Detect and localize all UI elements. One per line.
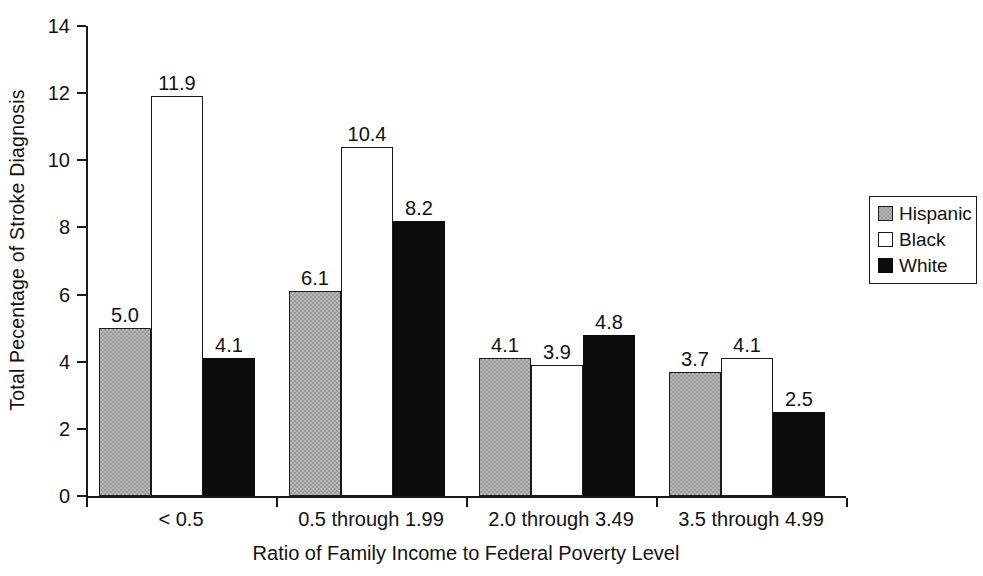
- legend-item-black[interactable]: Black: [878, 230, 968, 249]
- bar-value-label: 8.2: [405, 198, 433, 218]
- bar-white-1: 4.1: [203, 358, 255, 496]
- legend-item-white[interactable]: White: [878, 256, 968, 275]
- x-tick: [276, 498, 278, 507]
- bar-hispanic-2: 6.1: [289, 291, 341, 496]
- legend-item-hispanic[interactable]: Hispanic: [878, 204, 968, 223]
- y-tick: 10: [77, 159, 86, 161]
- bar-value-label: 2.5: [785, 389, 813, 409]
- bar-hispanic-1: 5.0: [99, 328, 151, 496]
- y-tick-label: 0: [59, 486, 70, 506]
- bar-hispanic-3: 4.1: [479, 358, 531, 496]
- y-tick-label: 8: [59, 217, 70, 237]
- bar-hispanic-4: 3.7: [669, 372, 721, 496]
- y-tick: 14: [77, 25, 86, 27]
- bar-value-label: 5.0: [111, 305, 139, 325]
- x-tick: [86, 498, 88, 507]
- bar-white-2: 8.2: [393, 221, 445, 496]
- plot-area: 02468101214 5.011.94.16.110.48.24.13.94.…: [86, 26, 846, 498]
- x-tick: [656, 498, 658, 507]
- legend: HispanicBlackWhite: [869, 196, 977, 284]
- bar-chart: Total Pecentage of Stroke Diagnosis 0246…: [0, 0, 983, 576]
- x-group-label: < 0.5: [86, 509, 276, 529]
- y-tick: 8: [77, 226, 86, 228]
- bar-value-label: 10.4: [348, 124, 387, 144]
- y-tick-label: 4: [59, 352, 70, 372]
- bar-value-label: 4.1: [491, 335, 519, 355]
- y-axis-line: [86, 26, 88, 498]
- bar-value-label: 11.9: [158, 73, 195, 93]
- y-tick: 2: [77, 428, 86, 430]
- legend-label: Hispanic: [899, 204, 972, 223]
- bar-value-label: 6.1: [301, 268, 329, 288]
- gray-hatched-swatch: [878, 206, 893, 221]
- bar-value-label: 4.1: [733, 335, 761, 355]
- bar-value-label: 4.1: [215, 335, 243, 355]
- bar-black-4: 4.1: [721, 358, 773, 496]
- y-axis-title: Total Pecentage of Stroke Diagnosis: [0, 0, 34, 500]
- x-group-label: 3.5 through 4.99: [656, 509, 846, 529]
- x-group-label: 2.0 through 3.49: [466, 509, 656, 529]
- y-tick: 4: [77, 361, 86, 363]
- bar-black-2: 10.4: [341, 147, 393, 496]
- y-tick: 0: [77, 495, 86, 497]
- x-tick: [846, 498, 848, 507]
- bar-black-1: 11.9: [151, 96, 203, 496]
- bar-white-3: 4.8: [583, 335, 635, 496]
- bar-value-label: 3.9: [543, 342, 571, 362]
- y-tick-label: 2: [59, 419, 70, 439]
- black-swatch: [878, 258, 893, 273]
- x-tick: [466, 498, 468, 507]
- y-tick: 6: [77, 294, 86, 296]
- y-tick: 12: [77, 92, 86, 94]
- y-tick-label: 6: [59, 285, 70, 305]
- bar-value-label: 4.8: [595, 312, 623, 332]
- legend-label: Black: [899, 230, 945, 249]
- x-axis-title: Ratio of Family Income to Federal Povert…: [86, 543, 846, 563]
- bar-black-3: 3.9: [531, 365, 583, 496]
- legend-label: White: [899, 256, 948, 275]
- x-group-label: 0.5 through 1.99: [276, 509, 466, 529]
- bar-white-4: 2.5: [773, 412, 825, 496]
- y-tick-label: 14: [48, 16, 70, 36]
- legend-rows: HispanicBlackWhite: [878, 204, 968, 275]
- white-swatch: [878, 232, 893, 247]
- bar-value-label: 3.7: [681, 349, 709, 369]
- y-tick-label: 10: [48, 150, 70, 170]
- y-tick-label: 12: [48, 83, 70, 103]
